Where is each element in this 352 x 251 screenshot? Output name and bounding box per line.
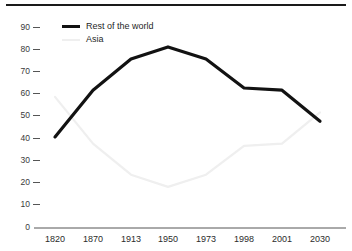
chart-figure: Rest of the world Asia 90 80 70 60 50 40…	[0, 0, 352, 251]
x-tick-label-1820: 1820	[38, 234, 72, 244]
x-tick-label-1950: 1950	[151, 234, 185, 244]
x-tick-label-1870: 1870	[76, 234, 110, 244]
x-tick-label-2030: 2030	[303, 234, 337, 244]
x-tick-label-1998: 1998	[227, 234, 261, 244]
x-tick-label-1913: 1913	[114, 234, 148, 244]
x-tick-label-2001: 2001	[265, 234, 299, 244]
series-line-asia	[55, 97, 320, 187]
plot-area	[0, 0, 352, 251]
x-tick-label-1973: 1973	[189, 234, 223, 244]
series-line-rest-of-the-world	[55, 47, 320, 137]
